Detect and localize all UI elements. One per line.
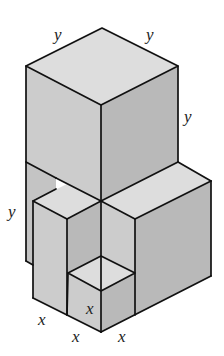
isometric-solid-diagram: y y y y x x x x bbox=[0, 0, 224, 356]
label-bottom-left-x: x bbox=[37, 310, 46, 329]
label-small-cube-x: x bbox=[85, 299, 94, 318]
label-bottom-middle-x: x bbox=[71, 327, 80, 346]
label-bottom-right-x: x bbox=[117, 327, 126, 346]
label-right-side-y: y bbox=[182, 107, 192, 126]
label-left-side-y: y bbox=[6, 202, 16, 221]
label-top-right-y: y bbox=[144, 25, 154, 44]
left-tall-box-left-face bbox=[33, 201, 67, 315]
label-top-left-y: y bbox=[52, 25, 62, 44]
